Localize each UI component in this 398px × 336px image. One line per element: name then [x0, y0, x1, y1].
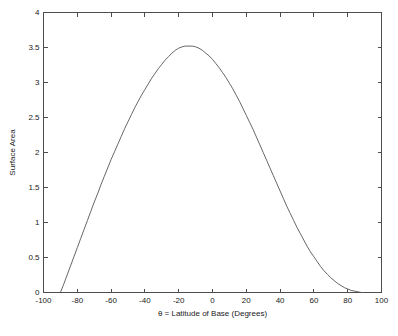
y-tick-label: 0.5 [28, 253, 40, 262]
x-tick-label: -60 [105, 296, 117, 305]
x-axis-label: θ = Latitude of Base (Degrees) [158, 309, 268, 318]
x-axis-ticks [44, 13, 382, 293]
y-tick-label: 3 [35, 78, 40, 87]
y-axis-ticks [44, 13, 382, 293]
y-tick-label: 3.5 [28, 43, 40, 52]
y-tick-label: 4 [35, 8, 40, 17]
y-axis-tick-labels: 00.511.522.533.54 [28, 8, 40, 297]
x-tick-label: 100 [375, 296, 389, 305]
surface-area-line-chart: -100-80-60-40-20020406080100 00.511.522.… [0, 0, 398, 336]
x-tick-label: 0 [210, 296, 215, 305]
x-tick-label: 60 [309, 296, 318, 305]
y-tick-label: 0 [35, 288, 40, 297]
plot-frame [44, 13, 382, 293]
x-tick-label: -100 [35, 296, 52, 305]
axes-frame [44, 13, 382, 293]
x-tick-label: 80 [343, 296, 352, 305]
y-axis-label: Surface Area [8, 129, 17, 176]
y-tick-label: 2.5 [28, 113, 40, 122]
y-tick-label: 2 [35, 148, 40, 157]
y-tick-label: 1.5 [28, 183, 40, 192]
x-tick-label: -20 [173, 296, 185, 305]
x-tick-label: 40 [276, 296, 285, 305]
figure-container: -100-80-60-40-20020406080100 00.511.522.… [0, 0, 398, 336]
data-series-line [60, 46, 364, 292]
x-axis-tick-labels: -100-80-60-40-20020406080100 [35, 296, 388, 305]
x-tick-label: -40 [139, 296, 151, 305]
x-tick-label: 20 [242, 296, 251, 305]
y-tick-label: 1 [35, 218, 40, 227]
x-tick-label: -80 [72, 296, 84, 305]
